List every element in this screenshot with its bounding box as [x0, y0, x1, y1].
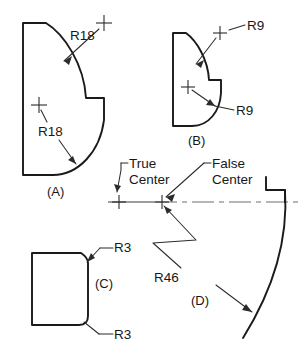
- figure-b-outline: [173, 33, 221, 126]
- figure-b-lower-center-mark: [181, 80, 195, 94]
- figure-c-outline: [32, 253, 88, 325]
- false-center-leader: [166, 163, 211, 202]
- figure-d-outline: [266, 177, 285, 202]
- figure-b: R9 R9 (B): [173, 18, 264, 148]
- figure-c-label: (C): [95, 276, 113, 291]
- true-center-leader: [114, 163, 128, 192]
- figure-c-lower-leader: [84, 322, 113, 334]
- drawing-canvas: R18 R18 (A): [0, 0, 308, 350]
- figure-b-label: (B): [188, 133, 205, 148]
- false-center-label-line2: Center: [212, 172, 253, 187]
- figure-b-lower-leader: [192, 90, 234, 110]
- figure-d-label: (D): [191, 293, 209, 308]
- true-center-label-line1: True: [129, 156, 156, 171]
- figure-d-radius-label: R46: [154, 270, 179, 285]
- figure-a-upper-radius-label: R18: [70, 28, 95, 43]
- figure-d-true-center-mark: [112, 195, 126, 209]
- figure-c-upper-radius-label: R3: [114, 240, 131, 255]
- figure-a-lower-center-mark: [31, 97, 47, 113]
- figure-a-label: (A): [47, 184, 64, 199]
- figure-b-upper-radius-label: R9: [247, 18, 264, 33]
- figure-c: R3 R3 (C): [32, 240, 131, 342]
- figure-b-lower-radius-label: R9: [236, 103, 253, 118]
- figure-a-outline: [23, 23, 104, 175]
- figure-a-upper-center-mark: [96, 15, 112, 31]
- figure-b-upper-center-mark: [213, 26, 227, 40]
- figure-c-lower-radius-label: R3: [114, 327, 131, 342]
- technical-drawing-sheet: R18 R18 (A): [0, 0, 308, 350]
- true-center-label-line2: Center: [129, 172, 170, 187]
- figure-a: R18 R18 (A): [23, 15, 112, 199]
- figure-c-upper-leader: [87, 248, 113, 262]
- figure-d-arc-pointer-leader: [216, 285, 252, 312]
- false-center-label-line1: False: [212, 156, 245, 171]
- figure-d: True Center False Center R46: [108, 156, 300, 338]
- figure-a-lower-radius-label: R18: [38, 124, 63, 139]
- figure-d-r46-leader: [153, 206, 196, 268]
- figure-d-large-arc: [243, 190, 285, 338]
